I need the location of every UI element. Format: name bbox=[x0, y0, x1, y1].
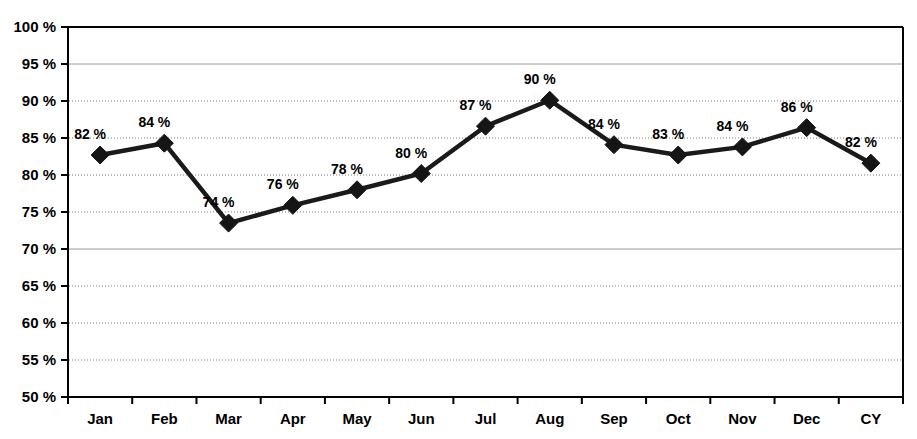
data-point-marker bbox=[348, 181, 366, 199]
y-axis-tick-label: 60 % bbox=[22, 314, 56, 331]
x-axis-tick-label: Apr bbox=[280, 410, 306, 427]
x-axis-tick-label: Jul bbox=[475, 410, 497, 427]
data-point-label: 84 % bbox=[716, 118, 748, 134]
data-point-marker bbox=[733, 138, 751, 156]
x-axis-tick-label: Nov bbox=[728, 410, 757, 427]
data-point-label: 82 % bbox=[845, 134, 877, 150]
data-point-label: 80 % bbox=[395, 145, 427, 161]
x-axis-tick-label: Dec bbox=[793, 410, 821, 427]
y-axis-tick-marks bbox=[61, 27, 68, 397]
data-point-marker bbox=[669, 146, 687, 164]
x-axis-tick-label: Feb bbox=[151, 410, 178, 427]
y-axis-tick-label: 95 % bbox=[22, 55, 56, 72]
x-axis-tick-marks bbox=[68, 397, 903, 404]
y-axis-tick-label: 55 % bbox=[22, 351, 56, 368]
data-point-label: 84 % bbox=[138, 114, 170, 130]
x-axis-tick-label: Sep bbox=[600, 410, 628, 427]
y-axis-tick-label: 70 % bbox=[22, 240, 56, 257]
y-axis-tick-label: 50 % bbox=[22, 388, 56, 405]
line-chart: 50 %55 %60 %65 %70 %75 %80 %85 %90 %95 %… bbox=[0, 0, 917, 439]
data-point-label: 90 % bbox=[524, 71, 556, 87]
data-point-label: 83 % bbox=[652, 126, 684, 142]
data-point-label: 82 % bbox=[74, 126, 106, 142]
data-point-label: 87 % bbox=[460, 97, 492, 113]
y-axis-tick-label: 80 % bbox=[22, 166, 56, 183]
data-point-marker bbox=[91, 146, 109, 164]
data-point-marker bbox=[798, 119, 816, 137]
x-axis-tick-label: CY bbox=[860, 410, 881, 427]
data-point-marker bbox=[862, 154, 880, 172]
y-axis-tick-label: 85 % bbox=[22, 129, 56, 146]
x-axis-tick-label: Oct bbox=[666, 410, 691, 427]
data-point-label: 76 % bbox=[267, 176, 299, 192]
y-axis-tick-label: 65 % bbox=[22, 277, 56, 294]
x-axis-tick-label: Jun bbox=[408, 410, 435, 427]
y-axis-tick-label: 100 % bbox=[13, 18, 56, 35]
x-axis-tick-label: Mar bbox=[215, 410, 242, 427]
data-point-label: 74 % bbox=[203, 194, 235, 210]
x-axis-tick-label: May bbox=[342, 410, 372, 427]
data-point-label: 84 % bbox=[588, 116, 620, 132]
x-axis-tick-labels: JanFebMarAprMayJunJulAugSepOctNovDecCY bbox=[87, 410, 881, 427]
y-axis-tick-label: 75 % bbox=[22, 203, 56, 220]
data-point-label: 86 % bbox=[781, 99, 813, 115]
x-axis-tick-label: Jan bbox=[87, 410, 113, 427]
chart-canvas: 50 %55 %60 %65 %70 %75 %80 %85 %90 %95 %… bbox=[0, 0, 917, 439]
data-point-marker bbox=[284, 196, 302, 214]
y-axis-tick-label: 90 % bbox=[22, 92, 56, 109]
data-point-label: 78 % bbox=[331, 161, 363, 177]
x-axis-tick-label: Aug bbox=[535, 410, 564, 427]
y-axis-tick-labels: 50 %55 %60 %65 %70 %75 %80 %85 %90 %95 %… bbox=[13, 18, 56, 405]
